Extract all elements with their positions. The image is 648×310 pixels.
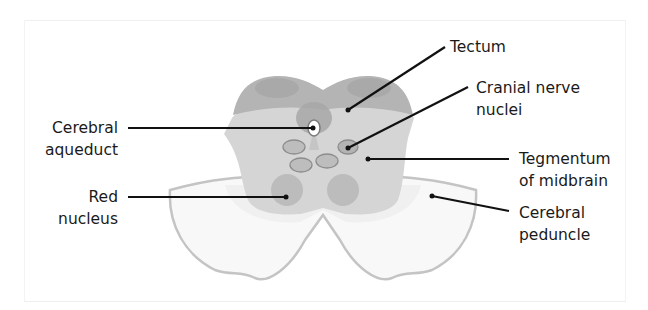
label-cerebral-aqueduct: Cerebral aqueduct bbox=[45, 117, 118, 161]
label-cerebral-peduncle-line2: peduncle bbox=[519, 224, 590, 246]
nucleus-oval-1 bbox=[283, 140, 305, 154]
nucleus-oval-3 bbox=[316, 154, 338, 168]
label-cranial-nerve-nuclei-line2: nuclei bbox=[476, 99, 580, 121]
label-cerebral-aqueduct-line2: aqueduct bbox=[45, 139, 118, 161]
label-tectum: Tectum bbox=[450, 36, 506, 58]
nucleus-oval-2 bbox=[290, 158, 312, 172]
label-cerebral-peduncle-line1: Cerebral bbox=[519, 202, 590, 224]
label-red-nucleus-line1: Red bbox=[58, 186, 118, 208]
label-tectum-text: Tectum bbox=[450, 36, 506, 58]
label-cranial-nerve-nuclei-line1: Cranial nerve bbox=[476, 77, 580, 99]
label-red-nucleus-line2: nucleus bbox=[58, 208, 118, 230]
red-nucleus-left bbox=[271, 174, 303, 206]
label-cerebral-peduncle: Cerebral peduncle bbox=[519, 202, 590, 246]
colliculus-right bbox=[347, 78, 391, 98]
label-cranial-nerve-nuclei: Cranial nerve nuclei bbox=[476, 77, 580, 121]
red-nucleus-right bbox=[327, 174, 359, 206]
label-tegmentum: Tegmentum of midbrain bbox=[519, 148, 611, 192]
label-tegmentum-line2: of midbrain bbox=[519, 170, 611, 192]
label-tegmentum-line1: Tegmentum bbox=[519, 148, 611, 170]
label-red-nucleus: Red nucleus bbox=[58, 186, 118, 230]
colliculus-left bbox=[255, 78, 299, 98]
label-cerebral-aqueduct-line1: Cerebral bbox=[45, 117, 118, 139]
